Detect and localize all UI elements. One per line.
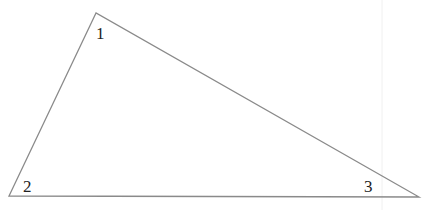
angle-label-3: 3 (364, 177, 373, 196)
triangle-diagram: 1 2 3 (0, 0, 435, 210)
triangle-svg: 1 2 3 (0, 0, 435, 210)
triangle-outline (9, 13, 419, 197)
angle-label-2: 2 (23, 177, 32, 196)
angle-label-1: 1 (96, 24, 105, 43)
